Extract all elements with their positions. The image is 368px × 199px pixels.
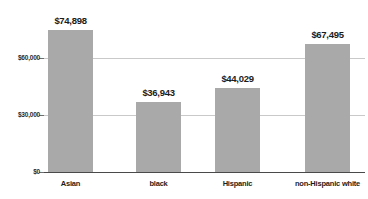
- bar-hispanic: [215, 88, 260, 172]
- category-label-non-hispanic-white: non-Hispanic white: [283, 179, 368, 188]
- bar-value-label-non-hispanic-white: $67,495: [295, 29, 360, 40]
- bar-value-label-black: $36,943: [126, 87, 191, 98]
- bar-asian: [48, 30, 93, 172]
- bar-non-hispanic-white: [305, 44, 350, 172]
- y-axis-label-60000: $60,000: [0, 54, 40, 61]
- bar-black: [136, 102, 181, 172]
- category-label-black: black: [128, 179, 189, 188]
- bar-value-label-asian: $74,898: [38, 15, 103, 26]
- y-axis-label-30000: $30,000: [0, 111, 40, 118]
- y-axis-label-0: $0: [0, 168, 40, 175]
- category-label-hispanic: Hispanic: [207, 179, 268, 188]
- category-label-asian: Asian: [40, 179, 101, 188]
- bar-chart: $60,000 $30,000 $0 $74,898 $36,943 $44,0…: [0, 0, 368, 199]
- bar-value-label-hispanic: $44,029: [205, 73, 270, 84]
